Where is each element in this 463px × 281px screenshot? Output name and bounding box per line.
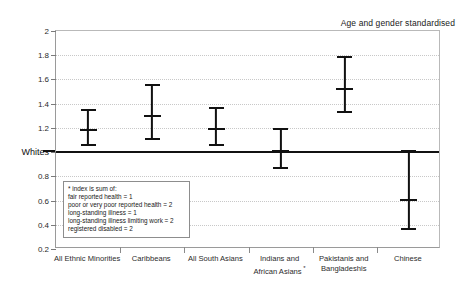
- x-axis-category-label-line: African Asians *: [254, 264, 306, 276]
- error-bar-lower-cap: [401, 228, 416, 230]
- gridline: [56, 176, 439, 177]
- x-axis-tick: [377, 247, 378, 253]
- x-axis-category-label-line: All South Asians: [188, 254, 243, 264]
- error-bar-stem: [344, 56, 346, 113]
- note-line: long-standing illness limiting work = 2: [68, 217, 185, 225]
- y-axis-tick: [51, 104, 56, 105]
- x-axis-category-label: All South Asians: [188, 254, 243, 264]
- y-axis-tick: [51, 176, 56, 177]
- x-axis-category-label-line: Pakistanis and: [319, 254, 368, 264]
- error-bar-lower-cap: [145, 138, 160, 140]
- y-axis-label: 0.2: [38, 245, 49, 254]
- error-bar-stem: [215, 107, 217, 146]
- note-line: registered disabled = 2: [68, 225, 185, 233]
- index-definition-note-box: * index is sum of: fair reported health …: [63, 181, 190, 238]
- chart-title: Age and gender standardised: [341, 18, 455, 28]
- error-bar-stem: [151, 84, 153, 140]
- x-axis-category-label: Chinese: [394, 254, 422, 264]
- error-bar-point-estimate: [400, 199, 417, 201]
- error-bar-upper-cap: [81, 109, 96, 111]
- error-bar-point-estimate: [208, 128, 225, 130]
- x-axis-category-label-line: Chinese: [394, 254, 422, 264]
- x-axis-category-label-line: Caribbeans: [132, 254, 171, 264]
- gridline: [56, 104, 439, 105]
- x-axis-category-label: Pakistanis andBangladeshis: [319, 254, 368, 273]
- x-axis-category-label-line: All Ethnic Minorities: [54, 254, 120, 264]
- note-line: long-standing illness = 1: [68, 209, 185, 217]
- error-bar-upper-cap: [145, 84, 160, 86]
- y-axis-tick: [51, 79, 56, 80]
- error-bar-lower-cap: [337, 111, 352, 113]
- x-axis-tick: [313, 247, 314, 253]
- note-line: * index is sum of:: [68, 185, 185, 193]
- whites-reference-line: [56, 151, 439, 153]
- error-bar-upper-cap: [401, 150, 416, 152]
- y-axis-label-whites: Whites: [21, 147, 49, 157]
- error-bar-lower-cap: [273, 167, 288, 169]
- x-axis-tick: [184, 247, 185, 253]
- error-bar-point-estimate: [144, 115, 161, 117]
- x-axis-category-label: Caribbeans: [132, 254, 171, 264]
- error-bar-point-estimate: [336, 88, 353, 90]
- error-bar-stem: [279, 128, 281, 169]
- x-axis-category-label: Indians andAfrican Asians *: [254, 254, 306, 276]
- error-bar-stem: [87, 109, 89, 147]
- error-bar-stem: [408, 150, 410, 230]
- gridline: [56, 55, 439, 56]
- gridline: [56, 79, 439, 80]
- y-axis-tick: [51, 249, 56, 250]
- y-axis-label: 2: [45, 27, 49, 36]
- note-line: fair reported health = 1: [68, 193, 185, 201]
- y-axis-tick: [51, 225, 56, 226]
- y-axis-label: 1.4: [38, 99, 49, 108]
- y-axis-label: 1.8: [38, 51, 49, 60]
- error-bar-point-estimate: [272, 150, 289, 152]
- y-axis-tick: [51, 31, 56, 32]
- x-axis-category-label: All Ethnic Minorities: [54, 254, 120, 264]
- y-axis-label: 1.6: [38, 75, 49, 84]
- x-axis-tick: [249, 247, 250, 253]
- error-bar-upper-cap: [337, 56, 352, 58]
- y-axis-label: 1.2: [38, 123, 49, 132]
- whites-reference-line-stub: [43, 150, 55, 152]
- x-axis-tick: [120, 247, 121, 253]
- footnote-marker: *: [302, 265, 306, 271]
- y-axis-label: 0.6: [38, 196, 49, 205]
- chart-container: Age and gender standardised 21.81.61.41.…: [0, 0, 463, 281]
- x-axis-category-label-line: Indians and: [254, 254, 306, 264]
- y-axis-label: 0.8: [38, 172, 49, 181]
- gridline: [56, 128, 439, 129]
- y-axis-label: 0.4: [38, 220, 49, 229]
- y-axis-tick: [51, 128, 56, 129]
- error-bar-lower-cap: [209, 144, 224, 146]
- y-axis-tick: [51, 55, 56, 56]
- y-axis-tick: [51, 201, 56, 202]
- error-bar-lower-cap: [81, 144, 96, 146]
- error-bar-point-estimate: [80, 129, 97, 131]
- error-bar-upper-cap: [209, 107, 224, 109]
- error-bar-upper-cap: [273, 128, 288, 130]
- note-line: poor or very poor reported health = 2: [68, 201, 185, 209]
- x-axis-category-label-line: Bangladeshis: [319, 264, 368, 274]
